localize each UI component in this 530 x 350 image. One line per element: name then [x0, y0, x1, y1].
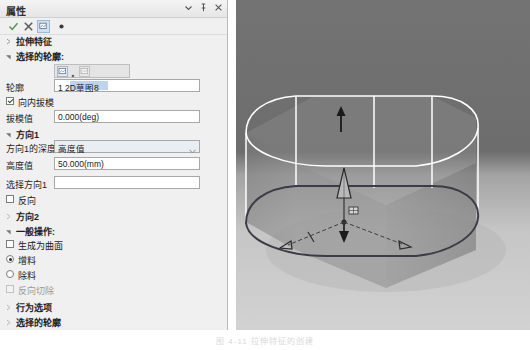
- radio-row-add-material[interactable]: 增料: [0, 253, 227, 266]
- radio-row-remove-material[interactable]: 除料: [0, 268, 227, 281]
- depth-mode-select[interactable]: 高度值: [54, 140, 200, 153]
- draft-value: 0.000(deg): [58, 112, 99, 122]
- chevron-right-icon-profile2[interactable]: [5, 318, 12, 325]
- clear-profile-icon[interactable]: [79, 66, 90, 77]
- dropdown-dot-icon[interactable]: [71, 70, 74, 73]
- profile-input[interactable]: 1 2D草图8: [54, 79, 200, 92]
- titlebar-buttons: [184, 3, 223, 12]
- group-selected-profile[interactable]: 选择的轮廓:: [0, 49, 227, 62]
- remove-material-radio[interactable]: [6, 270, 14, 278]
- chevron-right-icon-behavior[interactable]: [5, 303, 12, 310]
- remove-material-label: 除料: [18, 269, 36, 282]
- draft-value-input[interactable]: 0.000(deg): [54, 110, 200, 123]
- property-panel: 属性: [0, 0, 228, 330]
- group-direction1[interactable]: 方向1: [0, 127, 227, 140]
- group-label-selected-profile: 选择的轮廓:: [16, 50, 64, 63]
- pick-direction-label: 选择方向1: [6, 178, 47, 191]
- page-title: 属性: [6, 3, 27, 18]
- group-label-direction1: 方向1: [16, 128, 39, 141]
- add-material-label: 增料: [18, 254, 36, 267]
- checkbox-row-draft-inward[interactable]: 向内拔模: [0, 95, 227, 108]
- checkbox-row-reverse[interactable]: 反向: [0, 193, 227, 206]
- draft-value-label: 拔模值: [6, 112, 33, 125]
- group-selected-profile-2[interactable]: 选择的轮廓: [0, 315, 227, 328]
- reverse-cut-checkbox: [6, 285, 14, 293]
- dot-icon[interactable]: [55, 20, 68, 33]
- panel-titlebar: 属性: [0, 0, 227, 18]
- chevron-right-icon-direction2[interactable]: [5, 212, 12, 219]
- group-direction2[interactable]: 方向2: [0, 209, 227, 222]
- pin-icon[interactable]: [199, 3, 208, 12]
- close-icon[interactable]: [214, 3, 223, 12]
- chevron-down-icon[interactable]: [184, 3, 193, 12]
- group-extrude-feature[interactable]: 拉伸特征: [0, 34, 227, 47]
- reverse-checkbox[interactable]: [6, 195, 14, 203]
- profile-toolbar: [54, 64, 130, 78]
- x-icon[interactable]: [22, 20, 35, 33]
- group-behavior-options[interactable]: 行为选项: [0, 300, 227, 313]
- draft-inward-label: 向内拔模: [18, 96, 54, 109]
- checkbox-row-as-surface[interactable]: 生成为曲面: [0, 238, 227, 251]
- group-label-selected-profile-2: 选择的轮廓: [16, 316, 61, 329]
- group-label-extrude-feature: 拉伸特征: [16, 35, 52, 48]
- group-general-ops[interactable]: 一般操作:: [0, 224, 227, 237]
- profile-label: 轮廓: [6, 81, 24, 94]
- check-icon[interactable]: [7, 20, 20, 33]
- figure-caption: 图 4-11 拉伸特征的创建: [0, 330, 530, 350]
- property-list: 拉伸特征 选择的轮廓:: [0, 34, 227, 330]
- as-surface-label: 生成为曲面: [18, 239, 63, 252]
- chevron-down-icon-general[interactable]: [5, 227, 12, 234]
- height-label: 高度值: [6, 159, 33, 172]
- draft-inward-checkbox[interactable]: [6, 97, 14, 105]
- pick-direction-input[interactable]: [54, 176, 200, 189]
- profile-value: 1 2D草图8: [58, 81, 99, 93]
- as-surface-checkbox[interactable]: [6, 240, 14, 248]
- app-root: 属性: [0, 0, 530, 350]
- viewport-3d[interactable]: [236, 0, 530, 330]
- group-label-behavior-options: 行为选项: [16, 301, 52, 314]
- edit-profile-icon[interactable]: [37, 20, 50, 33]
- checkbox-row-reverse-cut: 反向切除: [0, 283, 227, 296]
- depth-label: 方向1的深度: [6, 142, 56, 155]
- height-value: 50.000(mm): [58, 159, 104, 169]
- viewport-canvas[interactable]: [236, 0, 530, 330]
- add-material-radio[interactable]: [6, 255, 14, 263]
- caption-text: 图 4-11 拉伸特征的创建: [0, 335, 530, 346]
- group-label-general-ops: 一般操作:: [16, 225, 55, 238]
- reverse-cut-label: 反向切除: [18, 284, 54, 297]
- chevron-down-icon-profile[interactable]: [5, 52, 12, 59]
- reverse-label: 反向: [18, 194, 36, 207]
- chevron-down-icon-direction1[interactable]: [5, 130, 12, 137]
- depth-mode-value: 高度值: [58, 142, 85, 154]
- group-label-direction2: 方向2: [16, 210, 39, 223]
- panel-command-bar: [0, 18, 227, 35]
- height-input[interactable]: 50.000(mm): [54, 157, 200, 170]
- chevron-right-icon[interactable]: [5, 37, 12, 44]
- chevron-down-icon-depth[interactable]: [189, 146, 196, 156]
- select-profile-icon[interactable]: [57, 66, 68, 77]
